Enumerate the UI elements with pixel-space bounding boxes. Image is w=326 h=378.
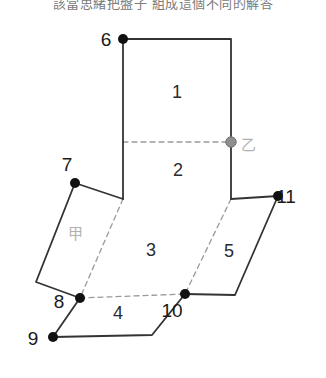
vertex-dot-7[interactable] [70,178,80,188]
vertex-label-11: 11 [276,186,296,207]
solid-edges-group [36,39,278,337]
vertex-label-7: 7 [62,154,73,175]
vertex-label-yi: 乙 [241,136,256,154]
region-label-5: 5 [224,241,234,261]
region-label-1: 1 [172,82,182,102]
vertex-dot-yi[interactable] [226,137,236,147]
geometry-figure: 12345甲67891011乙 [0,0,326,378]
vertex-label-8: 8 [54,291,65,312]
vertex-label-10: 10 [161,300,182,321]
vertex-dot-9[interactable] [48,332,58,342]
dashed-edge-3 [80,294,185,298]
region-label-3: 3 [146,240,156,260]
vertex-label-9: 9 [28,328,39,349]
vertex-dot-10[interactable] [180,289,190,299]
vertices-group: 67891011乙 [28,29,296,349]
region-label-4: 4 [113,303,123,323]
region-label-jia: 甲 [68,225,83,243]
dashed-edge-1 [80,199,123,298]
region-label-2: 2 [173,160,183,180]
dashed-edges-group [80,142,231,298]
solid-edge-3 [231,196,278,199]
solid-edge-2 [75,183,123,199]
region-labels-group: 12345甲 [68,82,235,323]
vertex-label-6: 6 [101,29,112,50]
vertex-dot-6[interactable] [118,34,128,44]
vertex-dot-8[interactable] [75,293,85,303]
